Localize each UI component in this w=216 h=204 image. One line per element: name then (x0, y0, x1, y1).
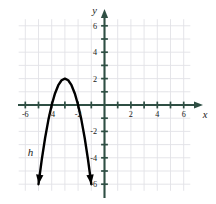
y-tick-label--2: -2 (90, 127, 97, 136)
y-axis-name: y (91, 5, 97, 16)
axis-tick-labels: -6-4-2246642-2-4-6yxh (22, 5, 208, 189)
graph-figure: -6-4-2246642-2-4-6yxh (0, 0, 216, 204)
x-tick-label--2: -2 (75, 110, 82, 119)
x-tick-label--6: -6 (22, 110, 29, 119)
x-tick-label-2: 2 (129, 110, 133, 119)
y-tick-label-4: 4 (93, 48, 97, 57)
x-tick-label--4: -4 (48, 110, 55, 119)
y-axis-arrow (101, 9, 108, 18)
x-tick-label-4: 4 (155, 110, 159, 119)
y-tick-label--6: -6 (90, 180, 97, 189)
axes (18, 9, 203, 198)
coordinate-plane: -6-4-2246642-2-4-6yxh (0, 0, 216, 204)
x-axis-name: x (202, 109, 208, 120)
y-tick-label--4: -4 (90, 154, 97, 163)
x-axis-arrow (194, 101, 203, 108)
x-tick-label-6: 6 (182, 110, 186, 119)
curve-label-h: h (28, 146, 34, 158)
y-tick-label-2: 2 (93, 75, 97, 84)
y-tick-label-6: 6 (93, 22, 97, 31)
